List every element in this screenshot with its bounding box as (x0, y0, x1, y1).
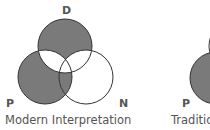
label-n: N (119, 97, 128, 110)
venn-diagrams: D P N Modern Interpretation P Traditio (0, 0, 210, 130)
caption-traditional: Traditio (170, 113, 210, 127)
modern-venn: D P N Modern Interpretation (5, 4, 131, 127)
traditional-venn: P Traditio (170, 19, 210, 127)
label-d: D (62, 4, 71, 17)
label-p-traditional: P (182, 97, 190, 110)
caption-modern: Modern Interpretation (5, 113, 131, 127)
label-p: P (6, 97, 14, 110)
circle-p-traditional (190, 52, 210, 104)
